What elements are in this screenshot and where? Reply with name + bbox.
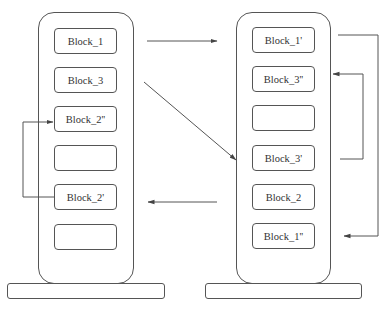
- arrow-block3-to-block3prime: [144, 82, 236, 160]
- left-block-4-empty: [54, 145, 117, 171]
- block-label: Block_1'': [264, 231, 303, 242]
- right-block-3-empty: [252, 105, 315, 131]
- left-block-3: Block_2'': [54, 106, 117, 132]
- block-label: Block_3: [68, 75, 104, 86]
- block-label: Block_2'': [66, 114, 105, 125]
- right-block-1: Block_1': [252, 27, 315, 53]
- left-block-5: Block_2': [54, 184, 117, 210]
- right-block-5: Block_2: [252, 184, 315, 210]
- left-block-2: Block_3: [54, 67, 117, 93]
- arrow-block1prime-to-block1doubleprime: [338, 35, 378, 236]
- block-label: Block_3'': [264, 74, 303, 85]
- left-block-1: Block_1: [54, 28, 117, 54]
- right-block-4: Block_3': [252, 145, 315, 171]
- block-label: Block_1': [265, 35, 302, 46]
- left-block-6-empty: [54, 224, 117, 250]
- block-label: Block_1: [68, 36, 104, 47]
- arrow-block3prime-to-block3doubleprime: [333, 74, 363, 159]
- right-block-6: Block_1'': [252, 223, 315, 249]
- block-label: Block_3': [265, 153, 302, 164]
- right-block-2: Block_3'': [252, 66, 315, 92]
- left-stack-base: [7, 283, 165, 299]
- block-label: Block_2': [67, 192, 104, 203]
- block-label: Block_2: [266, 192, 302, 203]
- right-stack-base: [205, 283, 362, 299]
